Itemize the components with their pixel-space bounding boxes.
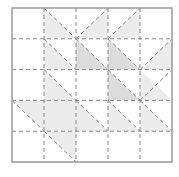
shaded-triangles — [12, 8, 172, 162]
quilt-block-diagram — [0, 0, 179, 177]
shaded-triangle — [44, 100, 76, 131]
